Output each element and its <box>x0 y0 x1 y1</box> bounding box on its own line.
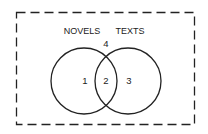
texts-label: TEXTS <box>115 26 144 36</box>
region-2-label: 2 <box>103 75 108 86</box>
universe-dashed-border <box>17 13 195 125</box>
region-4-label: 4 <box>103 38 108 49</box>
region-3-label: 3 <box>126 75 131 86</box>
region-1-label: 1 <box>82 75 87 86</box>
novels-label: NOVELS <box>64 26 101 36</box>
venn-diagram: NOVELS TEXTS 4 1 2 3 <box>0 0 208 134</box>
